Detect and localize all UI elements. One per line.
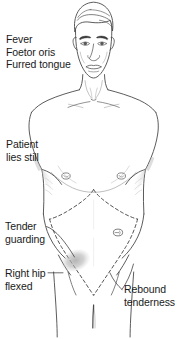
thigh-right-inner [111,272,119,295]
groin-centre-line [93,305,94,328]
nose-bridge [90,44,94,58]
annotation-patient-lies-still: Patient lies still [6,138,39,163]
annotation-tender-guarding-line-2: guarding [5,233,45,246]
groin-centre-shadow [94,305,95,328]
annotation-fever-line-3: Furred tongue [6,58,71,71]
annotation-right-hip-flexed: Right hip flexed [5,267,46,292]
annotation-fever: Fever Foetor oris Furred tongue [6,33,71,71]
hair-outline [74,2,112,31]
nose-base [89,59,98,61]
illustration-canvas: Fever Foetor oris Furred tongue Patient … [0,0,187,339]
leader-line-rebound-1 [110,273,122,290]
scm-left [85,81,91,98]
annotation-fever-line-1: Fever [6,33,71,46]
upper-lip [86,65,101,67]
annotation-tender-guarding: Tender guarding [5,220,45,245]
tender-area-shading [57,244,94,276]
chin-crease [89,71,99,72]
eyebrow-left [80,36,91,39]
annotation-right-hip-flexed-line-1: Right hip [5,267,46,280]
thigh-left-outer [54,272,58,337]
flank-left [43,214,65,258]
annotation-rebound-tenderness: Rebound tenderness [124,283,175,308]
neck-left-edge [79,75,82,90]
eyebrow-right [97,36,108,39]
scm-right [96,81,102,98]
nostril-right [98,56,100,59]
annotation-tender-guarding-line-1: Tender [5,220,45,233]
annotation-rebound-tenderness-line-2: tenderness [124,296,175,309]
cheek-left [80,52,84,63]
nostril-left [88,56,90,59]
lower-lip [86,67,101,69]
annotation-rebound-tenderness-line-1: Rebound [124,283,175,296]
shading-right-arm [146,157,155,171]
annotation-patient-lies-still-line-1: Patient [6,138,39,151]
flank-right [122,214,144,258]
thigh-left-inner [68,272,76,295]
cheek-right [103,52,107,63]
umbilicus-marker [113,229,122,236]
annotation-right-hip-flexed-line-2: flexed [5,280,46,293]
annotation-patient-lies-still-line-2: lies still [6,151,39,164]
head-group [73,2,114,78]
annotation-fever-line-2: Foetor oris [6,46,71,59]
neck-right-edge [105,75,108,90]
shoulder-slope-right [108,90,156,112]
iris-left [84,42,87,45]
neck-shoulder-group [32,75,156,113]
iris-right [100,42,103,45]
shoulder-slope-left [32,90,80,112]
